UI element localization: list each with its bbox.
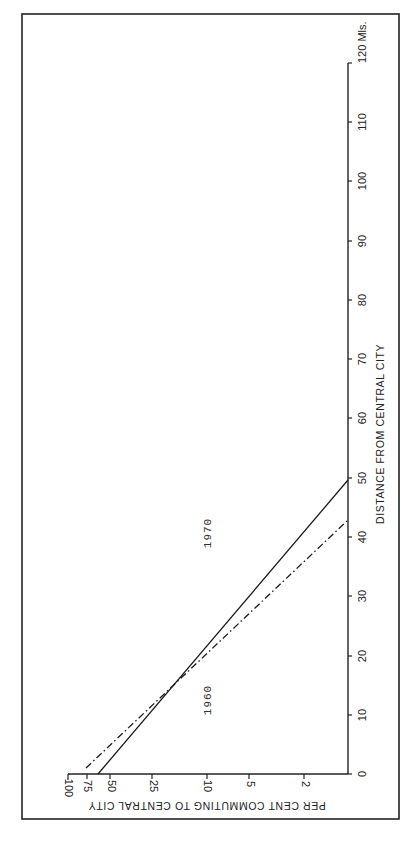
x-axis-title: DISTANCE FROM CENTRAL CITY xyxy=(374,344,386,524)
y-tick-100: 100 xyxy=(63,779,75,797)
series-1960-label: 1960 xyxy=(202,685,214,715)
x-tick-70: 70 xyxy=(356,353,368,365)
y-tick-5: 5 xyxy=(245,781,257,787)
y-tick-50: 50 xyxy=(106,780,118,792)
x-tick-100: 100 xyxy=(356,172,368,190)
x-tick-10: 10 xyxy=(356,709,368,721)
x-tick-50: 50 xyxy=(356,472,368,484)
x-tick-20: 20 xyxy=(356,650,368,662)
x-tick-60: 60 xyxy=(356,412,368,424)
series-1970-label: 1970 xyxy=(202,518,214,548)
x-tick-110: 110 xyxy=(356,113,368,131)
percent-ticks xyxy=(87,774,304,779)
series-1970-line xyxy=(98,480,348,774)
x-tick-40: 40 xyxy=(356,531,368,543)
x-tick-0: 0 xyxy=(356,771,368,777)
y-tick-25: 25 xyxy=(148,780,160,792)
y-axis-title: PER CENT COMMUTING TO CENTRAL CITY xyxy=(88,800,326,812)
x-tick-90: 90 xyxy=(356,235,368,247)
y-tick-75: 75 xyxy=(82,780,94,792)
y-tick-10: 10 xyxy=(202,780,214,792)
percent-tick-labels: 100 75 50 25 10 5 2 xyxy=(63,779,312,797)
distance-tick-labels: 0 10 20 30 40 50 60 70 80 90 100 110 120… xyxy=(356,21,368,777)
x-tick-80: 80 xyxy=(356,294,368,306)
commuting-chart: 0 10 20 30 40 50 60 70 80 90 100 110 120… xyxy=(0,0,418,841)
series-1960-line xyxy=(86,520,348,768)
y-tick-2: 2 xyxy=(300,781,312,787)
x-tick-120: 120 Mls. xyxy=(356,21,368,63)
x-tick-30: 30 xyxy=(356,590,368,602)
